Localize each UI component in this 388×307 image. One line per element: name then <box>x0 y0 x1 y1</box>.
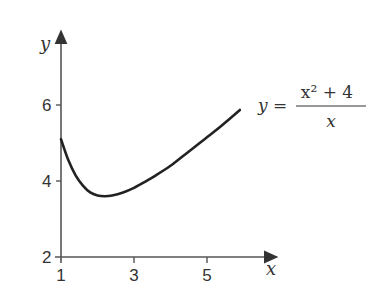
svg-text:x² + 4: x² + 4 <box>301 82 353 102</box>
x-axis-label: x <box>266 258 276 279</box>
y-tick-label: 4 <box>42 172 51 191</box>
x-ticks: 135 <box>56 257 211 285</box>
function-plot: y x 246 135 y = x² + 4 x <box>0 0 388 307</box>
y-axis-label: y <box>39 33 51 54</box>
x-tick-label: 3 <box>129 266 138 285</box>
formula-annotation: y = x² + 4 x <box>257 82 366 131</box>
x-tick-label: 1 <box>56 266 65 285</box>
function-curve <box>61 110 240 196</box>
svg-text:x: x <box>326 111 336 131</box>
y-tick-label: 2 <box>42 248 51 267</box>
svg-text:y =: y = <box>257 95 287 115</box>
y-ticks: 246 <box>42 96 61 267</box>
x-tick-label: 5 <box>202 266 211 285</box>
y-tick-label: 6 <box>42 96 51 115</box>
